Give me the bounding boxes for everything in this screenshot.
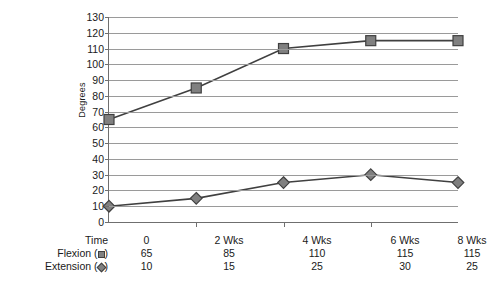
data-point-diamond <box>452 177 464 189</box>
y-tick-label: 20 <box>92 185 104 195</box>
flexion-value-4: 115 <box>449 247 495 260</box>
x-tick-mark <box>196 222 197 227</box>
y-tick-label: 80 <box>92 91 104 101</box>
time-value-4: 8 Wks <box>449 234 495 247</box>
y-tick-mark <box>105 112 109 113</box>
row-label-extension-prefix: Extension ( <box>45 260 98 272</box>
y-tick-label: 30 <box>92 170 104 180</box>
y-tick-mark <box>105 206 109 207</box>
y-axis-tick-labels: 0102030405060708090100110120130 <box>70 0 108 232</box>
y-tick-label: 130 <box>86 12 104 22</box>
y-tick-label: 70 <box>92 107 104 117</box>
gridline <box>109 143 458 144</box>
table-row-extension: Extension () 10 15 25 30 25 <box>0 260 495 273</box>
time-value-2: 4 Wks <box>273 234 361 247</box>
y-tick-label: 50 <box>92 138 104 148</box>
time-value-0: 0 <box>108 234 185 247</box>
data-table: Time 0 2 Wks 4 Wks 6 Wks 8 Wks Flexion (… <box>0 234 495 273</box>
x-tick-mark <box>371 222 372 227</box>
row-label-flexion-prefix: Flexion ( <box>57 247 97 259</box>
y-tick-mark <box>105 17 109 18</box>
gridline <box>109 159 458 160</box>
y-tick-label: 0 <box>98 217 104 227</box>
row-label-extension: Extension () <box>0 260 108 273</box>
y-tick-mark <box>105 49 109 50</box>
gridline <box>109 49 458 50</box>
y-tick-mark <box>105 127 109 128</box>
y-tick-mark <box>105 143 109 144</box>
flexion-value-1: 85 <box>185 247 273 260</box>
gridline <box>109 190 458 191</box>
y-tick-label: 100 <box>86 59 104 69</box>
time-value-1: 2 Wks <box>185 234 273 247</box>
y-tick-mark <box>105 190 109 191</box>
data-point-diamond <box>278 177 290 189</box>
y-tick-mark <box>105 96 109 97</box>
x-tick-mark <box>284 222 285 227</box>
extension-value-3: 30 <box>361 260 449 273</box>
table-row-flexion: Flexion () 65 85 110 115 115 <box>0 247 495 260</box>
gridline <box>109 33 458 34</box>
row-label-flexion: Flexion () <box>0 247 108 260</box>
flexion-value-2: 110 <box>273 247 361 260</box>
data-point-square <box>366 36 376 46</box>
y-tick-mark <box>105 64 109 65</box>
flexion-value-0: 65 <box>108 247 185 260</box>
time-value-3: 6 Wks <box>361 234 449 247</box>
data-point-diamond <box>190 193 202 205</box>
y-tick-mark <box>105 80 109 81</box>
y-tick-mark <box>105 159 109 160</box>
y-tick-label: 10 <box>92 201 104 211</box>
y-tick-label: 110 <box>87 44 104 54</box>
extension-value-0: 10 <box>108 260 185 273</box>
gridline <box>109 80 458 81</box>
gridline <box>109 127 458 128</box>
data-point-square <box>104 115 114 125</box>
y-tick-label: 90 <box>92 75 104 85</box>
extension-value-2: 25 <box>273 260 361 273</box>
flexion-value-3: 115 <box>361 247 449 260</box>
y-tick-label: 120 <box>86 28 104 38</box>
y-tick-mark <box>105 175 109 176</box>
y-tick-label: 60 <box>92 122 104 132</box>
y-tick-mark <box>105 222 109 223</box>
line-chart-figure: Degrees 0102030405060708090100110120130 … <box>0 0 495 288</box>
table-row-time: Time 0 2 Wks 4 Wks 6 Wks 8 Wks <box>0 234 495 247</box>
square-marker-icon <box>98 251 105 258</box>
gridline <box>109 175 458 176</box>
gridline <box>109 206 458 207</box>
data-point-square <box>191 83 201 93</box>
y-tick-mark <box>105 33 109 34</box>
gridline <box>109 112 458 113</box>
row-label-flexion-suffix: ) <box>105 247 109 259</box>
gridline <box>109 17 458 18</box>
row-label-time: Time <box>0 234 108 247</box>
extension-value-1: 15 <box>185 260 273 273</box>
plot-area <box>108 17 458 223</box>
gridline <box>109 64 458 65</box>
gridline <box>109 96 458 97</box>
extension-value-4: 25 <box>449 260 495 273</box>
data-point-square <box>453 36 463 46</box>
y-tick-label: 40 <box>92 154 104 164</box>
